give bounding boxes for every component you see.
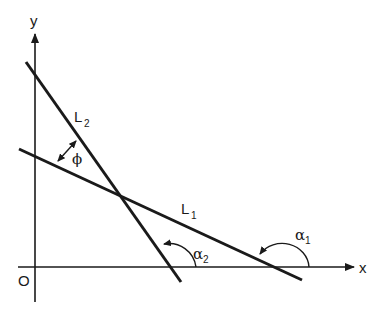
diagram-canvas: y x O L 2 L 1 ϕ α 2 α 1	[0, 0, 380, 314]
l2-label: L	[74, 108, 82, 125]
x-axis-label: x	[359, 259, 367, 276]
line-l1	[19, 149, 302, 280]
alpha1-subscript: 1	[305, 235, 311, 246]
alpha1-label: α	[295, 226, 305, 244]
alpha2-subscript: 2	[203, 254, 209, 265]
origin-label: O	[18, 272, 30, 289]
phi-label: ϕ	[72, 150, 82, 168]
l1-label: L	[181, 200, 189, 217]
line-l2	[26, 62, 181, 282]
l1-subscript: 1	[191, 210, 197, 221]
lines-angle-diagram: y x O L 2 L 1 ϕ α 2 α 1	[0, 0, 380, 314]
l2-subscript: 2	[84, 118, 90, 129]
alpha2-label: α	[193, 245, 203, 263]
y-axis-label: y	[30, 12, 38, 29]
